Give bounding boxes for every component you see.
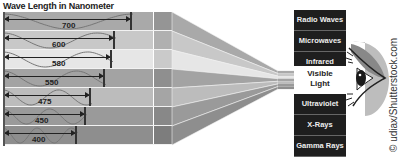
spectrum-x-rays: X-Rays bbox=[294, 115, 346, 136]
eye-icon bbox=[345, 38, 390, 118]
visible-label-line1: Visible bbox=[294, 69, 346, 79]
beam-band bbox=[278, 76, 294, 79]
spectrum-visible-light: Visible Light bbox=[294, 66, 346, 93]
origin-line bbox=[3, 12, 5, 146]
spectrum-ultraviolet: Ultraviolet bbox=[294, 94, 346, 115]
beam-band bbox=[278, 71, 294, 74]
beam-band bbox=[278, 87, 294, 90]
beam-band bbox=[278, 84, 294, 87]
spectrum-microwaves: Microwaves bbox=[294, 31, 346, 52]
spectrum-gamma-rays: Gamma Rays bbox=[294, 136, 346, 157]
beam-band bbox=[278, 81, 294, 84]
visible-label-line2: Light bbox=[294, 79, 346, 89]
copyright-credit: © udiax/Shutterstock.com bbox=[388, 38, 399, 152]
spectrum-radio-waves: Radio Waves bbox=[294, 10, 346, 31]
beam-band bbox=[278, 74, 294, 77]
beam-band bbox=[278, 79, 294, 82]
